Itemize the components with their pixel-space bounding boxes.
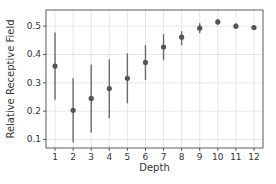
data-series — [52, 19, 256, 142]
plot-area-frame — [46, 10, 263, 148]
errorbar-chart: 0.10.20.30.40.5 123456789101112 Depth Re… — [0, 0, 276, 184]
y-axis-label: Relative Receptive Field — [5, 19, 16, 138]
data-point-marker — [251, 25, 256, 30]
y-axis-ticks: 0.10.20.30.40.5 — [27, 21, 46, 144]
y-tick-label: 0.1 — [27, 134, 41, 144]
x-tick-label: 6 — [143, 152, 149, 162]
y-tick-label: 0.4 — [27, 49, 42, 59]
x-tick-label: 7 — [161, 152, 167, 162]
x-axis-label: Depth — [139, 162, 169, 173]
data-point-marker — [233, 24, 238, 29]
x-tick-label: 2 — [70, 152, 76, 162]
data-point-marker — [215, 19, 220, 24]
y-tick-label: 0.2 — [27, 106, 41, 116]
x-tick-label: 11 — [230, 152, 241, 162]
data-point-marker — [107, 86, 112, 91]
data-point-marker — [161, 45, 166, 50]
x-tick-label: 12 — [248, 152, 259, 162]
y-tick-label: 0.3 — [27, 78, 41, 88]
grid-lines — [46, 10, 263, 148]
x-tick-label: 3 — [88, 152, 94, 162]
data-point-marker — [197, 26, 202, 31]
data-point-marker — [125, 76, 130, 81]
x-tick-label: 8 — [179, 152, 185, 162]
x-tick-label: 10 — [212, 152, 224, 162]
data-point-marker — [52, 64, 57, 69]
data-point-marker — [89, 96, 94, 101]
x-axis-ticks: 123456789101112 — [52, 148, 260, 162]
data-point-marker — [71, 108, 76, 113]
data-point-marker — [143, 60, 148, 65]
y-tick-label: 0.5 — [27, 21, 41, 31]
x-tick-label: 9 — [197, 152, 203, 162]
x-tick-label: 1 — [52, 152, 58, 162]
x-tick-label: 5 — [125, 152, 131, 162]
x-tick-label: 4 — [106, 152, 112, 162]
data-point-marker — [179, 35, 184, 40]
